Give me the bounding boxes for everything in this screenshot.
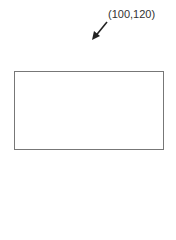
rectangle-shape (14, 71, 164, 150)
